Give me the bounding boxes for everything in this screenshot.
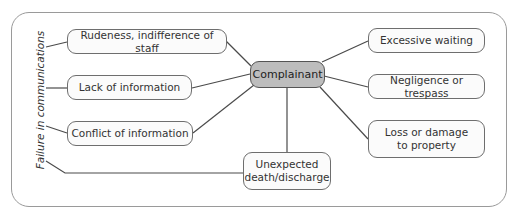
node-lack-of-information: Lack of information: [67, 75, 192, 100]
group-label-failure-in-communications: Failure in communications: [34, 31, 46, 170]
node-loss-or-damage-to-property: Loss or damage to property: [368, 120, 485, 158]
node-negligence-or-trespass: Negligence or trespass: [368, 74, 485, 99]
node-rudeness: Rudeness, indifference of staff: [67, 29, 227, 54]
node-conflict-of-information: Conflict of information: [67, 121, 193, 146]
node-excessive-waiting: Excessive waiting: [368, 28, 485, 53]
node-unexpected-death-discharge: Unexpected death/discharge: [243, 152, 331, 190]
node-complainant: Complainant: [250, 61, 325, 88]
